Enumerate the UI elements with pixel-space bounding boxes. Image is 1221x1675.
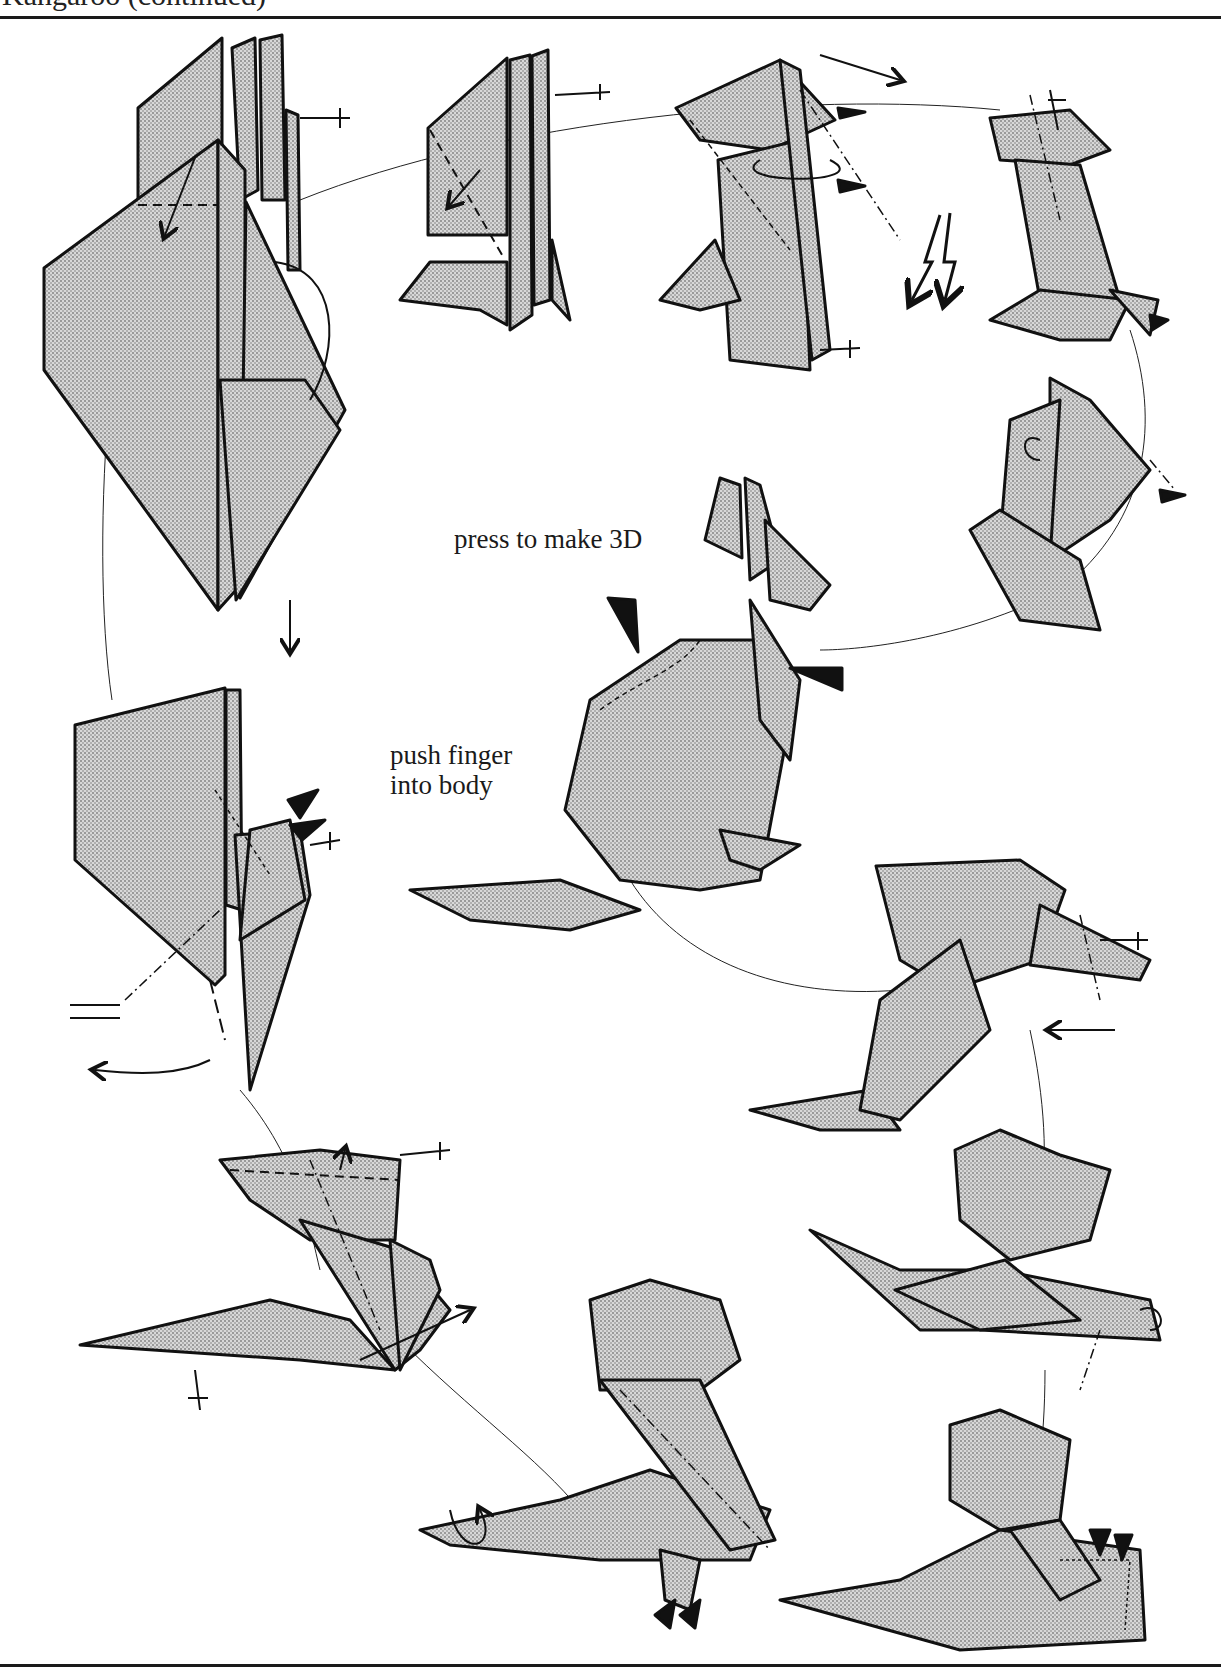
annotation-press-to-make-3d: press to make 3D [454,524,642,554]
sequence-line [630,880,900,992]
repeat-arrows-icon [912,213,955,300]
sequence-line [400,1340,580,1510]
sequence-line [300,104,1000,200]
annotation-push-finger-line2: into body [390,770,590,800]
step-a-diagram [44,35,350,650]
step-j-diagram [810,1130,1161,1390]
step-g-diagram [70,688,340,1090]
origami-diagram [0,0,1221,1675]
step-l-diagram [780,1410,1145,1650]
step-h-diagram [750,860,1150,1130]
step-i-diagram [80,1142,470,1410]
step-d-diagram [990,90,1168,340]
step-k-diagram [420,1280,775,1628]
annotation-push-finger: push finger into body [390,740,590,800]
step-e-diagram [970,378,1185,630]
step-b-diagram [400,50,610,330]
annotation-push-finger-line1: push finger [390,740,590,770]
step-c-diagram [660,55,900,370]
